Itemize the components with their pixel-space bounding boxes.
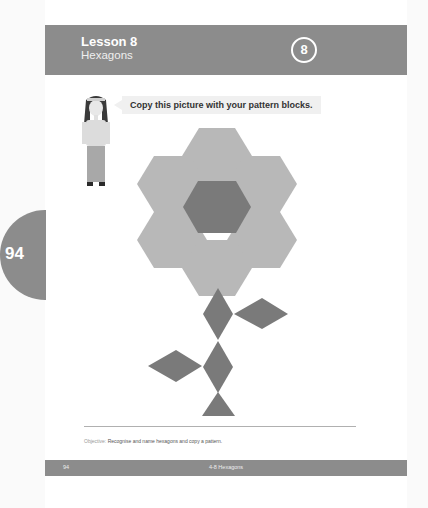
page-footer: 94 4-8 Hexagons [45,460,407,476]
objective-label: Objective: [84,438,106,444]
pattern-block-flower [0,0,428,508]
leaf-rhombus-left [148,350,202,382]
objective-line: Objective: Recognise and name hexagons a… [84,438,222,444]
objective-text: Recognise and name hexagons and copy a p… [108,438,223,444]
leaf-rhombus-right [234,298,288,329]
base-triangle [202,392,235,416]
footer-title: 4-8 Hexagons [45,464,407,470]
divider-line [84,426,356,427]
stem-blocks [148,288,288,416]
stem-rhombus-lower [203,341,233,393]
